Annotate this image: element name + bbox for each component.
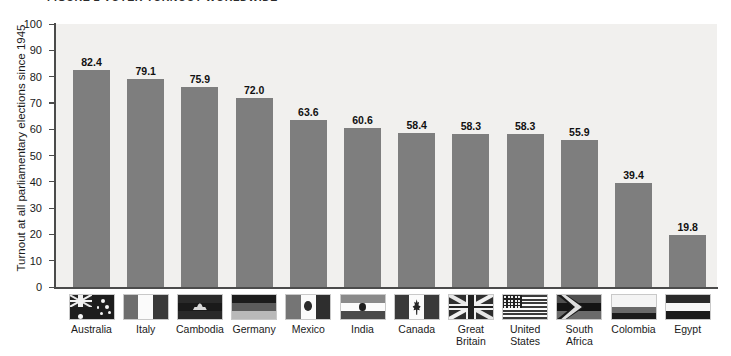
- bar-value-label: 58.3: [495, 120, 555, 132]
- figure-title: FIGURE 2 VOTER TURNOUT WORLDWIDE: [47, 0, 278, 1]
- category-label-line: India: [332, 324, 394, 336]
- bar-value-label: 58.4: [387, 119, 447, 131]
- category-label-australia: Australia: [61, 324, 123, 336]
- category-label-line: Egypt: [657, 324, 719, 336]
- y-tick-label: 30: [0, 203, 42, 213]
- category-label-line: United: [494, 324, 556, 336]
- bar-united-states[interactable]: [507, 134, 544, 287]
- flag-colombia-icon: [611, 294, 657, 320]
- bar-value-label: 19.8: [658, 221, 718, 233]
- y-tick-mark: [49, 287, 55, 288]
- category-label-egypt: Egypt: [657, 324, 719, 336]
- category-label-line: Great: [440, 324, 502, 336]
- flag-australia-icon: [69, 294, 115, 320]
- y-tick-label: 50: [0, 151, 42, 161]
- y-tick-label: 80: [0, 72, 42, 82]
- bar-egypt[interactable]: [669, 235, 706, 287]
- category-label-line: Germany: [223, 324, 285, 336]
- category-label-line: Africa: [548, 336, 610, 348]
- bar-mexico[interactable]: [290, 120, 327, 287]
- y-tick-mark: [49, 76, 55, 77]
- bar-value-label: 82.4: [62, 56, 122, 68]
- flag-egypt-icon: [665, 294, 711, 320]
- bar-italy[interactable]: [127, 79, 164, 287]
- y-tick-mark: [49, 24, 55, 25]
- y-tick-mark: [49, 155, 55, 156]
- category-label-line: South: [548, 324, 610, 336]
- x-axis-line: [54, 287, 718, 289]
- category-label-great-britain: GreatBritain: [440, 324, 502, 347]
- flag-india-icon: [340, 294, 386, 320]
- category-label-mexico: Mexico: [277, 324, 339, 336]
- y-tick-label: 20: [0, 229, 42, 239]
- category-label-india: India: [332, 324, 394, 336]
- bar-canada[interactable]: [398, 133, 435, 287]
- bar-india[interactable]: [344, 128, 381, 287]
- flag-mexico-icon: [285, 294, 331, 320]
- flag-south-africa-icon: [556, 294, 602, 320]
- flag-italy-icon: [123, 294, 169, 320]
- category-label-canada: Canada: [386, 324, 448, 336]
- y-tick-mark: [49, 102, 55, 103]
- category-label-line: States: [494, 336, 556, 348]
- category-label-cambodia: Cambodia: [169, 324, 231, 336]
- category-label-germany: Germany: [223, 324, 285, 336]
- category-label-line: Britain: [440, 336, 502, 348]
- category-label-line: Canada: [386, 324, 448, 336]
- category-label-line: Cambodia: [169, 324, 231, 336]
- bar-germany[interactable]: [236, 98, 273, 287]
- bar-value-label: 55.9: [549, 126, 609, 138]
- y-tick-label: 70: [0, 98, 42, 108]
- bar-value-label: 58.3: [441, 120, 501, 132]
- bar-australia[interactable]: [73, 70, 110, 287]
- bar-value-label: 63.6: [278, 106, 338, 118]
- category-label-line: Italy: [115, 324, 177, 336]
- flag-cambodia-icon: [177, 294, 223, 320]
- y-tick-label: 10: [0, 256, 42, 266]
- category-label-italy: Italy: [115, 324, 177, 336]
- category-label-line: Colombia: [603, 324, 665, 336]
- y-tick-label: 0: [0, 282, 42, 292]
- category-label-united-states: UnitedStates: [494, 324, 556, 347]
- y-tick-mark: [49, 234, 55, 235]
- flag-united-states-icon: [502, 294, 548, 320]
- flag-germany-icon: [231, 294, 277, 320]
- y-tick-label: 90: [0, 45, 42, 55]
- category-label-south-africa: SouthAfrica: [548, 324, 610, 347]
- bar-value-label: 75.9: [170, 73, 230, 85]
- bar-colombia[interactable]: [615, 183, 652, 287]
- bar-value-label: 79.1: [116, 65, 176, 77]
- category-label-line: Mexico: [277, 324, 339, 336]
- y-tick-label: 60: [0, 124, 42, 134]
- y-tick-label: 40: [0, 177, 42, 187]
- y-tick-mark: [49, 129, 55, 130]
- bar-great-britain[interactable]: [452, 134, 489, 287]
- y-tick-mark: [49, 208, 55, 209]
- flag-canada-icon: [394, 294, 440, 320]
- y-tick-mark: [49, 260, 55, 261]
- bar-south-africa[interactable]: [561, 140, 598, 287]
- bar-cambodia[interactable]: [181, 87, 218, 287]
- flag-great-britain-icon: [448, 294, 494, 320]
- category-label-line: Australia: [61, 324, 123, 336]
- bar-value-label: 72.0: [224, 84, 284, 96]
- y-tick-mark: [49, 50, 55, 51]
- y-tick-label: 100: [0, 19, 42, 29]
- category-label-colombia: Colombia: [603, 324, 665, 336]
- bar-value-label: 60.6: [333, 114, 393, 126]
- voter-turnout-bar-chart: FIGURE 2 VOTER TURNOUT WORLDWIDE Turnout…: [0, 0, 731, 356]
- bar-value-label: 39.4: [604, 169, 664, 181]
- y-tick-mark: [49, 181, 55, 182]
